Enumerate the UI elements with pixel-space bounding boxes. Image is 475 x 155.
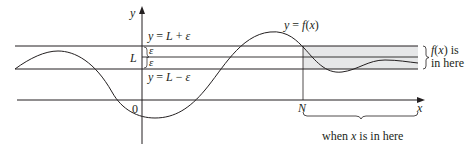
L-label: L [129, 51, 137, 65]
N-label: N [297, 101, 307, 115]
origin-label: 0 [132, 102, 138, 116]
curve-label: y = f(x) [283, 18, 319, 32]
bottom-brace-icon [303, 112, 418, 119]
shaded-band [303, 46, 418, 69]
epsilon-lower-label: ε [149, 56, 154, 68]
band-label-line1: f(x) is [431, 43, 459, 57]
epsilon-upper-label: ε [149, 44, 154, 56]
band-label-line2: in here [431, 56, 464, 70]
upper-line-label: y = L + ε [147, 29, 191, 43]
limit-diagram: y y = L + ε L ε ε y = L − ε 0 y = f(x) N… [0, 0, 475, 155]
diagram-canvas: y y = L + ε L ε ε y = L − ε 0 y = f(x) N… [0, 0, 475, 155]
y-axis-label: y [129, 6, 136, 20]
bottom-brace-label: when x is in here [322, 129, 403, 143]
y-axis-arrow-icon [139, 6, 145, 14]
function-curve [15, 32, 418, 118]
lower-line-label: y = L − ε [147, 70, 191, 84]
x-axis-label: x [416, 101, 423, 115]
epsilon-lower-brace-icon [144, 57, 147, 68]
right-brace-icon [423, 46, 429, 69]
